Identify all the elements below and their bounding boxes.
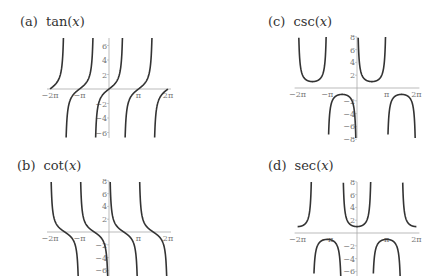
panel-csc: (c)csc(x) −2π−ππ2π8642−2−4−6−8	[218, 0, 437, 138]
y-tick-label: 2	[102, 71, 107, 80]
y-tick-label: 6	[102, 190, 107, 199]
x-tick-label: 2π	[163, 234, 173, 243]
curve-branch	[388, 94, 415, 138]
y-tick-label: −6	[343, 122, 355, 131]
curve-branch	[403, 183, 417, 227]
x-tick-label: 2π	[411, 90, 421, 99]
panel-sec: (d)sec(x) −2π−ππ2π8642−2−4−6	[218, 138, 437, 276]
y-tick-label: 8	[102, 177, 107, 186]
x-tick-label: π	[384, 90, 389, 99]
y-tick-label: −4	[343, 110, 355, 119]
x-tick-label: −2π	[289, 90, 306, 99]
y-tick-label: 6	[350, 46, 355, 55]
chart-sec: −2π−ππ2π8642−2−4−6	[218, 138, 437, 276]
y-tick-label: −4	[95, 254, 107, 263]
curve-branch	[373, 239, 400, 276]
panel-tan: (a)tan(x) −2π−ππ2π642−2−4−6	[0, 0, 218, 138]
curve-branch	[358, 37, 385, 82]
y-tick-label: 6	[350, 191, 355, 200]
y-tick-label: −2	[95, 100, 107, 109]
curve-branch	[299, 37, 326, 82]
y-tick-label: 8	[350, 33, 355, 42]
x-tick-label: −2π	[289, 235, 306, 244]
x-tick-label: 2π	[411, 235, 421, 244]
y-tick-label: 4	[102, 202, 107, 211]
curve-branch	[125, 38, 152, 137]
x-tick-label: −π	[74, 234, 86, 243]
curve-branch	[298, 182, 312, 227]
curve-branch	[110, 182, 137, 276]
curve-branch	[314, 239, 341, 276]
y-tick-label: 8	[350, 178, 355, 187]
y-tick-label: 4	[350, 203, 355, 212]
y-tick-label: −4	[343, 255, 355, 264]
curve-branch	[50, 38, 63, 89]
x-tick-label: −2π	[41, 234, 58, 243]
y-tick-label: 2	[350, 71, 355, 80]
y-tick-label: −6	[343, 267, 355, 276]
x-tick-label: −2π	[41, 91, 58, 100]
x-tick-label: −π	[321, 90, 333, 99]
y-tick-label: 4	[350, 58, 355, 67]
curve-branch	[51, 182, 78, 276]
y-tick-label: 6	[102, 42, 107, 51]
y-tick-label: 2	[102, 215, 107, 224]
curve-branch	[140, 182, 167, 276]
x-tick-label: π	[136, 234, 141, 243]
curve-branch	[66, 38, 93, 137]
y-tick-label: −2	[343, 242, 355, 251]
chart-csc: −2π−ππ2π8642−2−4−6−8	[218, 0, 437, 138]
y-tick-label: −6	[95, 129, 107, 138]
chart-tan: −2π−ππ2π642−2−4−6	[0, 0, 218, 138]
panel-cot: (b)cot(x) −2π−ππ2π8642−2−4−6	[0, 138, 218, 276]
x-tick-label: π	[136, 91, 141, 100]
y-tick-label: 4	[102, 56, 107, 65]
y-tick-label: −6	[95, 266, 107, 275]
chart-cot: −2π−ππ2π8642−2−4−6	[0, 138, 218, 276]
